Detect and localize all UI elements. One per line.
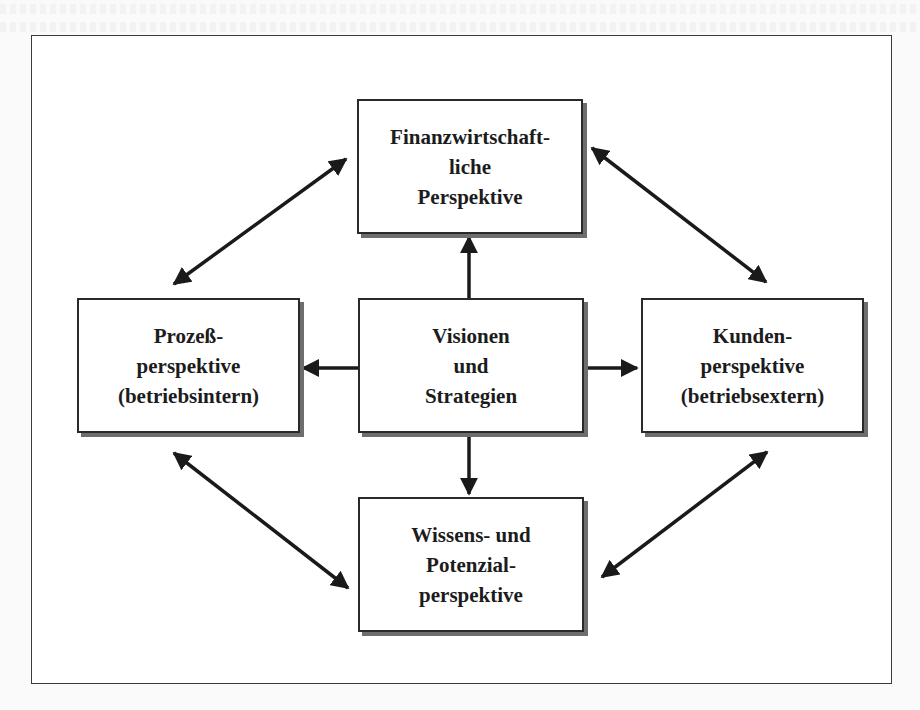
box-customer-perspective: Kunden- perspektive (betriebsextern)	[641, 298, 864, 433]
box-label-line: Potenzial-	[426, 550, 516, 580]
box-label-line: liche	[449, 152, 491, 182]
box-label-line: (betriebsintern)	[118, 381, 259, 411]
box-financial-perspective: Finanzwirtschaft- liche Perspektive	[357, 99, 583, 234]
box-label-line: perspektive	[701, 351, 805, 381]
box-label-line: perspektive	[419, 580, 523, 610]
box-label-line: und	[453, 351, 488, 381]
box-label-line: Kunden-	[713, 321, 792, 351]
box-label-line: (betriebsextern)	[681, 381, 824, 411]
box-label-line: perspektive	[137, 351, 241, 381]
box-label-line: Perspektive	[418, 182, 523, 212]
box-label-line: Finanzwirtschaft-	[390, 122, 550, 152]
box-label-line: Prozeß-	[154, 321, 224, 351]
box-knowledge-potential-perspective: Wissens- und Potenzial- perspektive	[358, 497, 584, 632]
box-label-line: Strategien	[425, 381, 517, 411]
box-label-line: Visionen	[432, 321, 509, 351]
background-bleed-text	[0, 4, 920, 14]
box-vision-strategy: Visionen und Strategien	[358, 298, 584, 433]
box-label-line: Wissens- und	[411, 520, 530, 550]
background-bleed-text	[0, 22, 920, 32]
box-process-perspective: Prozeß- perspektive (betriebsintern)	[77, 298, 300, 433]
